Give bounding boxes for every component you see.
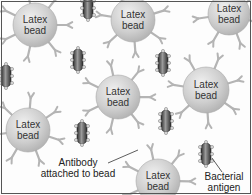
bacterium-icon — [155, 49, 170, 76]
antibody-icon — [193, 16, 211, 22]
antigen-icon — [158, 126, 161, 129]
bead-label-line2: bead — [186, 90, 226, 101]
antigen-icon — [4, 86, 7, 89]
antigen-icon — [155, 61, 158, 64]
antigen-icon — [0, 81, 2, 84]
antigen-icon — [170, 126, 173, 129]
bead-label-line2: bead — [113, 20, 153, 31]
antigen-icon — [164, 131, 167, 134]
antigen-icon — [210, 152, 213, 155]
antibody-icon — [104, 34, 119, 48]
antigen-icon — [70, 51, 73, 54]
antigen-icon — [158, 119, 161, 122]
latex-bead-label: Latexbead — [209, 3, 249, 25]
antigen-icon — [76, 70, 79, 73]
antigen-icon — [80, 0, 83, 3]
latex-bead-label: Latexbead — [8, 119, 48, 141]
antibody-icon — [130, 113, 143, 128]
antibody-icon — [150, 31, 166, 43]
antigen-icon — [76, 46, 79, 49]
antigen-icon — [170, 119, 173, 122]
antibody-icon — [226, 76, 243, 84]
antigen-icon — [4, 62, 7, 65]
antigen-icon — [86, 18, 89, 21]
antigen-icon — [10, 74, 13, 77]
antibody-icon — [178, 178, 195, 184]
antigen-icon — [10, 81, 13, 84]
antigen-icon — [198, 159, 201, 162]
antigen-label-line1: Bacterial — [196, 171, 252, 182]
antibody-icon — [47, 41, 60, 56]
antigen-icon — [155, 68, 158, 71]
antibody-icon — [45, 107, 61, 119]
antigen-icon — [86, 131, 89, 134]
antibody-icon — [185, 55, 196, 71]
antibody-label-line2: attached to bead — [28, 168, 128, 179]
antigen-icon — [92, 6, 95, 9]
antibody-icon — [236, 32, 245, 49]
antigen-icon — [204, 164, 207, 167]
bead-label-line1: Latex — [113, 9, 153, 20]
antigen-icon — [92, 0, 95, 3]
antigen-icon — [0, 74, 2, 77]
antigen-icon — [82, 51, 85, 54]
antigen-icon — [0, 67, 2, 70]
latex-bead-label: Latexbead — [138, 170, 178, 192]
antigen-icon — [198, 145, 201, 148]
antibody-label-line1: Antibody — [28, 157, 128, 168]
antibody-icon — [208, 30, 219, 46]
antigen-icon — [167, 61, 170, 64]
bead-label-line1: Latex — [98, 86, 138, 97]
antigen-icon — [170, 112, 173, 115]
antibody-icon — [28, 93, 34, 110]
antibody-icon — [223, 102, 239, 114]
antigen-icon — [158, 112, 161, 115]
antigen-icon — [164, 107, 167, 110]
bacterium-icon — [80, 0, 95, 22]
bacterium-icon — [158, 107, 173, 134]
antibody-icon — [107, 60, 114, 77]
antibody-icon — [24, 44, 31, 61]
agglutination-diagram: LatexbeadLatexbeadLatexbeadLatexbeadLate… — [0, 0, 252, 195]
antigen-icon — [92, 13, 95, 16]
antibody-icon — [147, 144, 153, 161]
antibody-label: Antibody attached to bead — [28, 157, 128, 179]
antibody-icon — [168, 81, 186, 87]
antibody-icon — [55, 22, 72, 28]
bead-label-line2: bead — [15, 25, 55, 36]
antigen-icon — [82, 58, 85, 61]
bacterium-icon — [74, 119, 89, 146]
antigen-icon — [161, 73, 164, 76]
bead-label-line2: bead — [8, 130, 48, 141]
bead-label-line2: bead — [138, 181, 178, 192]
antigen-icon — [167, 54, 170, 57]
bacterial-antigen-label: Bacterial antigen — [196, 171, 252, 193]
bacterium-icon — [198, 140, 213, 167]
antibody-icon — [138, 94, 155, 100]
bacterium-icon — [70, 46, 85, 73]
latex-bead-label: Latexbead — [98, 86, 138, 108]
antibody-icon — [0, 102, 13, 116]
bead-label-line1: Latex — [8, 119, 48, 130]
antigen-icon — [74, 131, 77, 134]
antigen-leader-line — [212, 158, 222, 172]
antigen-icon — [10, 67, 13, 70]
latex-bead-label: Latexbead — [15, 14, 55, 36]
antigen-icon — [74, 124, 77, 127]
latex-bead-label: Latexbead — [113, 9, 153, 31]
antibody-icon — [7, 147, 18, 163]
antigen-icon — [155, 54, 158, 57]
antibody-icon — [171, 150, 184, 165]
latex-bead-label: Latexbead — [186, 79, 226, 101]
antigen-icon — [80, 143, 83, 146]
antigen-icon — [70, 58, 73, 61]
antibody-icon — [206, 111, 212, 128]
bead-label-line2: bead — [209, 14, 249, 25]
antibody-icon — [133, 40, 139, 57]
antibody-icon — [152, 6, 169, 14]
antigen-icon — [210, 145, 213, 148]
bead-label-line1: Latex — [209, 3, 249, 14]
antibody-icon — [214, 53, 223, 70]
bead-label-line1: Latex — [186, 79, 226, 90]
antigen-label-line2: antigen — [196, 182, 252, 193]
